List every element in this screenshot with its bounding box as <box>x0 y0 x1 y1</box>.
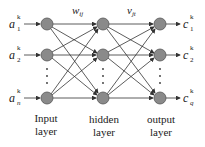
caption-hidden-line2: layer <box>93 126 115 138</box>
input-layer-nodes <box>41 18 53 104</box>
svg-text:k: k <box>17 87 21 95</box>
input-arrows <box>24 24 40 98</box>
node-input-n <box>41 92 53 104</box>
input-labels: a k 1 a k 2 a k n <box>9 13 21 107</box>
caption-input-line2: layer <box>35 125 57 137</box>
caption-output-line2: layer <box>150 126 172 138</box>
caption-output-line1: output <box>147 113 175 125</box>
edges-hidden-output <box>107 24 155 98</box>
output-arrows <box>166 24 180 98</box>
node-input-2 <box>41 49 53 61</box>
svg-text:c: c <box>183 17 189 31</box>
weight-label-w: wij <box>72 4 83 18</box>
hidden-layer-nodes <box>97 18 109 104</box>
svg-text:c: c <box>183 48 189 62</box>
node-hidden-p <box>97 92 109 104</box>
svg-text:k: k <box>190 44 194 52</box>
svg-text:k: k <box>17 44 21 52</box>
svg-text:1: 1 <box>190 25 194 33</box>
svg-text:a: a <box>9 48 15 62</box>
svg-text:a: a <box>9 91 15 105</box>
caption-input-line1: Input <box>34 112 57 124</box>
svg-text:2: 2 <box>17 56 21 64</box>
node-output-1 <box>154 18 166 30</box>
svg-text:c: c <box>183 91 189 105</box>
svg-text:k: k <box>17 13 21 21</box>
node-output-q <box>154 92 166 104</box>
svg-text:k: k <box>190 13 194 21</box>
layer-captions: Input layer hidden layer output layer <box>34 112 175 138</box>
caption-hidden-line1: hidden <box>89 113 119 125</box>
weight-label-v: vjt <box>127 4 137 18</box>
node-output-2 <box>154 49 166 61</box>
node-hidden-1 <box>97 18 109 30</box>
node-input-1 <box>41 18 53 30</box>
output-labels: c k 1 c k 2 c k q <box>183 13 194 107</box>
node-hidden-2 <box>97 49 109 61</box>
edges-input-hidden <box>51 24 98 98</box>
svg-text:2: 2 <box>190 56 194 64</box>
svg-text:q: q <box>190 99 194 107</box>
svg-text:1: 1 <box>17 25 21 33</box>
svg-text:n: n <box>17 99 21 107</box>
ellipsis-dots <box>46 68 161 84</box>
svg-text:a: a <box>9 17 15 31</box>
output-layer-nodes <box>154 18 166 104</box>
neural-network-diagram: wij vjt a k 1 a k 2 a k n c k 1 c k 2 c … <box>0 0 205 147</box>
svg-text:k: k <box>190 87 194 95</box>
